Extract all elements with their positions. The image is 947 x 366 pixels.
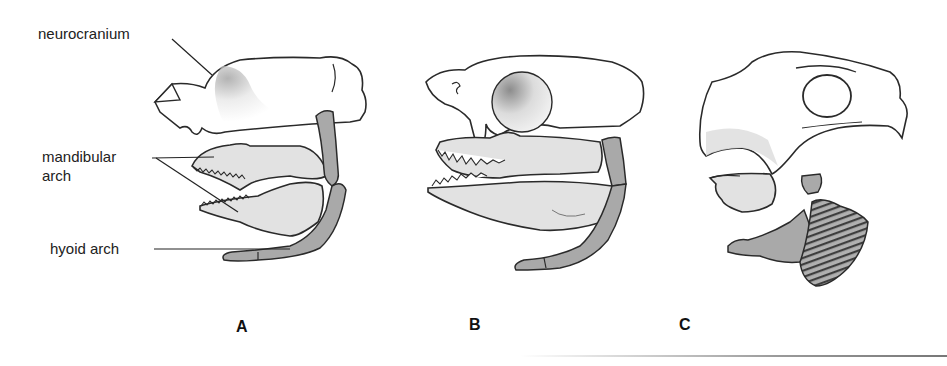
panel-a-skull — [155, 57, 366, 261]
hyoid-arch-c — [728, 210, 812, 262]
hyoid-element-c-small — [802, 174, 822, 194]
panel-c-skull — [700, 52, 907, 286]
label-mandibular-arch-line1: mandibular — [42, 147, 116, 166]
mandibular-arch-c — [710, 174, 776, 213]
gill-rakers-c — [800, 200, 868, 286]
bottom-rule — [520, 355, 947, 357]
panel-letter-c: C — [679, 316, 691, 334]
mandibular-arch-a-lower — [200, 182, 323, 236]
hyoid-arch-b-upper — [602, 137, 626, 186]
label-mandibular-arch-line2: arch — [42, 166, 71, 185]
label-hyoid-arch: hyoid arch — [50, 239, 119, 258]
leader-neurocranium — [172, 39, 212, 75]
neurocranium-c — [700, 52, 907, 174]
mandibular-arch-b-lower — [428, 182, 612, 231]
panel-letter-a: A — [236, 318, 248, 336]
panel-b-skull — [426, 56, 644, 270]
panel-letter-b: B — [469, 316, 481, 334]
label-neurocranium: neurocranium — [38, 24, 130, 43]
skull-diagram-artwork — [0, 0, 947, 366]
